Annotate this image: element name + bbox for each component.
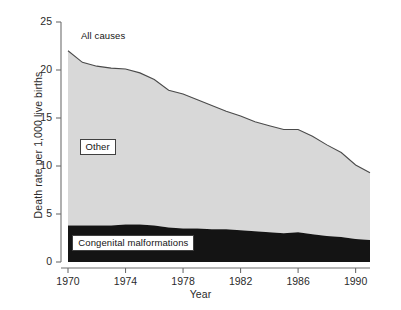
series-label-other: Other xyxy=(80,139,116,156)
y-tick-label-0: 0 xyxy=(20,255,52,267)
series-label-all-causes: All causes xyxy=(81,30,125,41)
x-tick-label-1986: 1986 xyxy=(273,275,323,287)
y-tick-label-25: 25 xyxy=(20,15,52,27)
x-tick-label-1982: 1982 xyxy=(216,275,266,287)
y-axis-title: Death rate per 1,000 live births xyxy=(32,45,44,245)
area-chart-plot xyxy=(0,0,401,310)
x-tick-label-1974: 1974 xyxy=(101,275,151,287)
x-axis-ticks xyxy=(68,268,356,273)
x-tick-label-1990: 1990 xyxy=(331,275,381,287)
x-tick-label-1970: 1970 xyxy=(43,275,93,287)
series-areas xyxy=(68,51,370,262)
series-label-congenital-malformations: Congenital malformations xyxy=(72,235,194,252)
chart-figure: 0510152025197019741978198219861990 Death… xyxy=(0,0,401,310)
x-tick-label-1978: 1978 xyxy=(158,275,208,287)
x-axis-title: Year xyxy=(0,288,401,300)
y-axis-ticks xyxy=(56,22,61,262)
